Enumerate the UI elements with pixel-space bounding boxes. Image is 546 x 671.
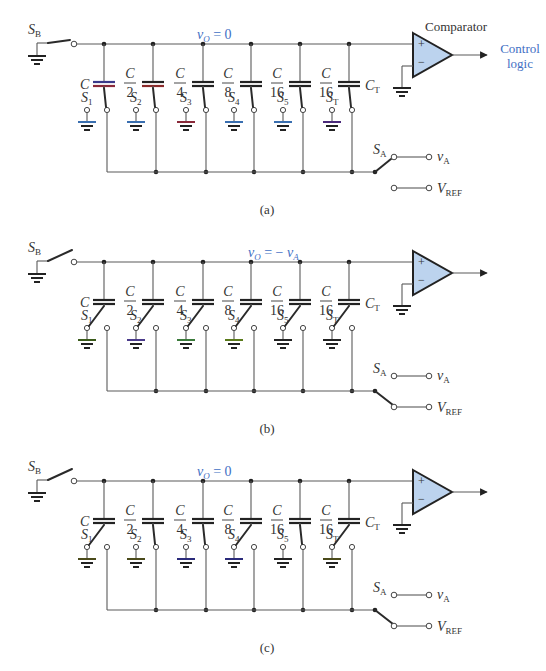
label-va: vA [437, 368, 450, 385]
switch-label-main: S [81, 90, 88, 105]
switch-label: S4 [228, 90, 240, 107]
capacitor-numerator: C [125, 503, 135, 518]
minus-sign: − [418, 492, 425, 506]
switch-label-sub: 3 [187, 315, 192, 325]
ground-icon [274, 559, 292, 567]
ground-icon [78, 340, 96, 348]
switch-s3[interactable] [203, 525, 205, 544]
switch-sa[interactable] [375, 391, 393, 405]
switch-s2[interactable] [153, 525, 155, 544]
switch-s6[interactable] [349, 88, 351, 107]
ground-icon [177, 122, 195, 130]
ground-terminal [133, 107, 138, 112]
capacitor-branch-6: C16CTST [319, 260, 380, 394]
capacitor-branch-1: CS1 [78, 260, 115, 391]
switch-label-sub: T [333, 534, 339, 544]
panel-c: SBvO = 0CS1C2S2C4S3C8S4C16S5C16CTSTvAVRE… [28, 459, 487, 655]
ground-terminal [280, 107, 285, 112]
capacitor-branch-3: C4S3 [174, 42, 214, 175]
switch-s3[interactable] [203, 88, 205, 107]
ground-icon [225, 340, 243, 348]
va-terminal [391, 373, 397, 379]
bus-terminal [251, 325, 256, 330]
va-terminal [391, 154, 397, 160]
node-voltage-label: vO = 0 [197, 464, 232, 481]
switch-label: ST [326, 308, 339, 325]
capacitor-branch-2: C2S2 [124, 42, 164, 175]
switch-label: S3 [180, 308, 192, 325]
vref-source-terminal [426, 623, 432, 629]
label-sb-sub: B [35, 247, 41, 257]
node-voltage-label: vO = − vA [248, 245, 299, 262]
control-logic-label: logic [507, 56, 533, 71]
switch-label-sub: 2 [137, 315, 142, 325]
control-logic-label: Control [500, 41, 540, 56]
switch-sb[interactable] [48, 250, 72, 261]
switch-s5[interactable] [300, 525, 302, 544]
label-sb-main: S [28, 240, 35, 255]
ground-icon [177, 340, 195, 348]
plus-sign: + [418, 474, 425, 488]
label-sa: SA [373, 580, 387, 597]
ground-icon [28, 56, 46, 64]
switch-label-sub: 4 [235, 97, 240, 107]
switch-s1[interactable] [104, 88, 106, 107]
plus-sign: + [418, 255, 425, 269]
switch-label: S4 [228, 527, 240, 544]
ground-terminal [280, 544, 285, 549]
label-sa-main: S [373, 361, 380, 376]
ground-icon [28, 274, 46, 282]
capacitor-numerator: C [223, 284, 233, 299]
switch-sb[interactable] [48, 40, 70, 43]
switch-label-main: S [326, 90, 333, 105]
ground-icon [28, 493, 46, 501]
switch-label-main: S [180, 527, 187, 542]
ground-terminal [133, 544, 138, 549]
panel-caption: (c) [260, 640, 274, 655]
bus-terminal [104, 544, 109, 549]
plus-sign: + [418, 37, 425, 51]
switch-s5[interactable] [300, 88, 302, 107]
switch-label-main: S [130, 90, 137, 105]
bus-terminal [300, 107, 305, 112]
label-va: vA [437, 587, 450, 604]
ground-icon [78, 559, 96, 567]
capacitor-branch-6: C16CTST [319, 42, 380, 175]
label-sb: SB [28, 459, 41, 476]
switch-s4[interactable] [251, 88, 253, 107]
switch-sb[interactable] [48, 469, 72, 480]
switch-label-main: S [228, 90, 235, 105]
switch-sa[interactable] [375, 610, 393, 624]
vref-terminal [391, 185, 397, 191]
capacitor-numerator: C [175, 66, 185, 81]
ground-terminal [183, 544, 188, 549]
ground-icon [127, 559, 145, 567]
label-vref-sub: REF [446, 407, 463, 417]
label-va-sub: A [443, 156, 450, 166]
ground-icon [127, 122, 145, 130]
label-sa-sub: A [380, 368, 387, 378]
capacitor-numerator: C [175, 503, 185, 518]
bus-terminal [349, 325, 354, 330]
panel-a: SBvO = 0CS1C2S2C4S3C8S4C16S5C16CTSTvAVRE… [28, 19, 540, 217]
switch-label-sub: 4 [235, 534, 240, 544]
panel-caption: (b) [259, 421, 274, 436]
switch-sa[interactable] [375, 159, 391, 172]
capacitor-branch-3: C4S3 [174, 479, 214, 613]
switch-label-main: S [228, 527, 235, 542]
label-ct: CT [365, 515, 380, 532]
panel-b: SBvO = − vACS1C2S2C4S3C8S4C16S5C16CTSTvA… [28, 240, 487, 436]
switch-label: S1 [81, 308, 93, 325]
capacitor-numerator: C [272, 66, 282, 81]
bus-terminal [104, 107, 109, 112]
ground-icon [127, 340, 145, 348]
capacitor-branch-5: C16S5 [270, 260, 311, 394]
capacitor-numerator: C [175, 284, 185, 299]
switch-s2[interactable] [153, 88, 155, 107]
label-sa-sub: A [380, 587, 387, 597]
label-ct: CT [365, 78, 380, 95]
bus-terminal [300, 325, 305, 330]
vo-rest: = − [261, 245, 287, 260]
comparator-label: Comparator [425, 19, 488, 34]
capacitor-branch-3: C4S3 [174, 260, 214, 394]
